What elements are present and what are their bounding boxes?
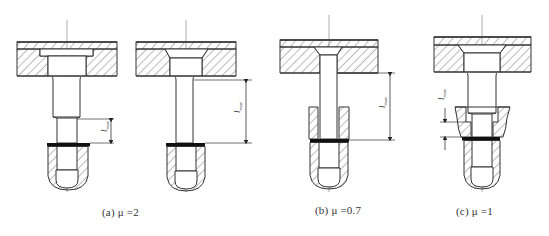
caption-c: (c) μ =1 <box>456 205 493 217</box>
dimension-label-c: lmax <box>436 88 447 100</box>
caption-a: (a) μ =2 <box>102 206 139 218</box>
buckling-diagram: lmax lmax <box>0 0 549 236</box>
figure-c <box>434 15 531 192</box>
dimension-label-a2: lmax <box>232 101 243 113</box>
dimension-label-b: lmax <box>377 96 388 108</box>
figure-a1 <box>17 20 117 192</box>
dimension-label-a1: lmax <box>99 120 110 132</box>
caption-b: (b) μ =0.7 <box>315 204 361 216</box>
figure-b <box>280 15 395 192</box>
figure-a2 <box>136 20 252 192</box>
